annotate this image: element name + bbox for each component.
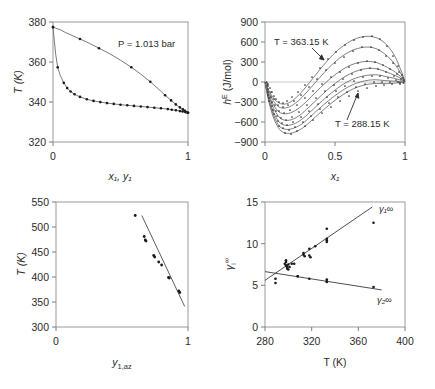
xtick-360: 360: [350, 335, 368, 347]
panel-a-pressure-annotation: P = 1.013 bar: [118, 38, 175, 49]
ytick-m900: −900: [234, 136, 258, 148]
ytick-5: 5: [252, 279, 258, 291]
panel-b-hot-annotation: T = 363.15 K: [274, 36, 329, 47]
ytick-m600: −600: [234, 116, 258, 128]
panel-activity-coefficients: 15 10 5 0 280 320 360 400 γi∞ T (K) γ₁∞ …: [217, 190, 435, 389]
panel-d-legend-gamma2: γ₂∞: [377, 294, 392, 305]
panel-c-svg: 550 500 450 400 350 300 0 1 T (K) y1,az: [0, 190, 218, 389]
panel-c-xlabel-sub: 1,az: [118, 362, 132, 371]
xtick-0: 0: [262, 150, 268, 162]
ytick-m300: −300: [234, 96, 258, 108]
ytick-0: 0: [252, 321, 258, 333]
panel-excess-enthalpy: 900 600 300 0 −300 −600 −900 0 0.5 1 hE …: [217, 0, 435, 195]
ytick-400: 400: [31, 271, 49, 283]
panel-c-x-ticklabels: 0 1: [53, 335, 191, 347]
panel-a-ylabel: T (K): [12, 70, 24, 93]
ytick-450: 450: [31, 246, 49, 258]
ytick-360: 360: [28, 56, 46, 68]
ytick-300: 300: [31, 321, 49, 333]
xtick-1: 1: [402, 150, 408, 162]
xtick-1: 1: [185, 150, 191, 162]
xtick-1: 1: [185, 335, 191, 347]
panel-b-ylabel: hE (J/mol): [221, 59, 233, 105]
ytick-320: 320: [28, 136, 46, 148]
panel-b-y-ticklabels: 900 600 300 0 −300 −600 −900: [234, 16, 258, 148]
panel-d-ylabel: γi∞: [223, 258, 237, 270]
xtick-0p5: 0.5: [328, 150, 343, 162]
figure-container: 380 360 340 320 0 1 T (K) x₁, y₁ P = 1.0…: [0, 0, 435, 389]
xtick-0: 0: [50, 150, 56, 162]
panel-d-xlabel: T (K): [323, 356, 346, 368]
panel-b-cold-annotation: T = 288.15 K: [335, 118, 390, 129]
ytick-300: 300: [240, 56, 258, 68]
ytick-350: 350: [31, 296, 49, 308]
panel-txy-diagram: 380 360 340 320 0 1 T (K) x₁, y₁ P = 1.0…: [0, 0, 218, 195]
panel-azeotrope-locus: 550 500 450 400 350 300 0 1 T (K) y1,az: [0, 190, 218, 389]
panel-c-xlabel: y1,az: [111, 356, 132, 371]
panel-a-x-ticklabels: 0 1: [50, 150, 191, 162]
panel-c-axes: [52, 202, 188, 331]
panel-b-svg: 900 600 300 0 −300 −600 −900 0 0.5 1 hE …: [217, 0, 435, 195]
panel-b-ylabel-unit: (J/mol): [221, 59, 233, 94]
xtick-0: 0: [53, 335, 59, 347]
ytick-10: 10: [246, 238, 258, 250]
panel-d-legend-gamma1: γ₁∞: [379, 203, 394, 214]
xtick-280: 280: [256, 335, 274, 347]
panel-d-y-ticklabels: 15 10 5 0: [246, 196, 258, 333]
ytick-500: 500: [31, 221, 49, 233]
panel-b-x-ticklabels: 0 0.5 1: [262, 150, 408, 162]
panel-a-svg: 380 360 340 320 0 1 T (K) x₁, y₁ P = 1.0…: [0, 0, 218, 195]
panel-c-ylabel: T (K): [15, 252, 27, 275]
panel-a-xlabel: x₁, y₁: [108, 170, 133, 182]
panel-d-x-ticklabels: 280 320 360 400: [256, 335, 414, 347]
ytick-15: 15: [246, 196, 258, 208]
ytick-0: 0: [252, 76, 258, 88]
panel-d-ylabel-sup: ∞: [223, 258, 230, 263]
panel-b-xlabel: x₁: [330, 170, 340, 182]
panel-d-svg: 15 10 5 0 280 320 360 400 γi∞ T (K) γ₁∞ …: [217, 190, 435, 389]
ytick-900: 900: [240, 16, 258, 28]
panel-d-ylabel-sub: i: [230, 263, 237, 265]
panel-d-axes: [261, 202, 405, 331]
panel-c-y-ticklabels: 550 500 450 400 350 300: [31, 196, 49, 333]
ytick-550: 550: [31, 196, 49, 208]
xtick-320: 320: [303, 335, 321, 347]
ytick-340: 340: [28, 96, 46, 108]
xtick-400: 400: [396, 335, 414, 347]
panel-a-y-ticklabels: 380 360 340 320: [28, 16, 46, 148]
ytick-380: 380: [28, 16, 46, 28]
ytick-600: 600: [240, 36, 258, 48]
